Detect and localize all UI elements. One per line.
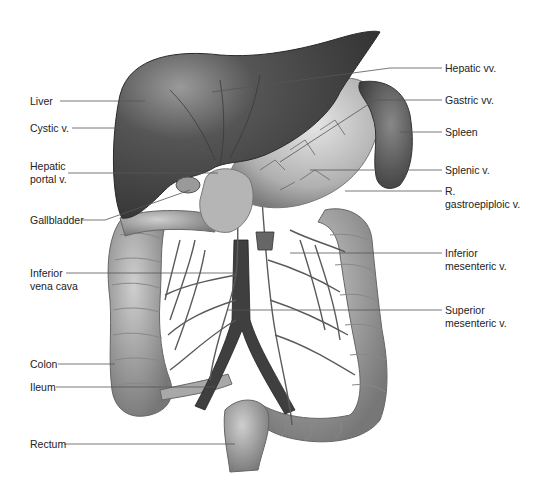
label-rectum: Rectum — [30, 438, 66, 451]
label-liver: Liver — [30, 95, 53, 108]
label-inferior-vena-cava: Inferior vena cava — [30, 267, 78, 292]
label-hepatic-portal-v: Hepatic portal v. — [30, 160, 67, 185]
label-superior-mesenteric-v: Superior mesenteric v. — [445, 304, 507, 329]
label-r-gastroepiploic-v: R. gastroepiploic v. — [445, 185, 520, 210]
label-gallbladder: Gallbladder — [30, 214, 84, 227]
label-inferior-mesenteric-v: Inferior mesenteric v. — [445, 247, 507, 272]
label-cystic-v: Cystic v. — [30, 122, 69, 135]
label-colon: Colon — [30, 358, 57, 371]
label-spleen: Spleen — [445, 126, 478, 139]
label-splenic-v: Splenic v. — [445, 164, 490, 177]
label-hepatic-vv: Hepatic vv. — [445, 62, 496, 75]
label-gastric-vv: Gastric vv. — [445, 94, 494, 107]
inferior-vena-cava — [195, 240, 295, 414]
aorta-stub — [256, 232, 274, 250]
label-ileum: Ileum — [30, 381, 56, 394]
